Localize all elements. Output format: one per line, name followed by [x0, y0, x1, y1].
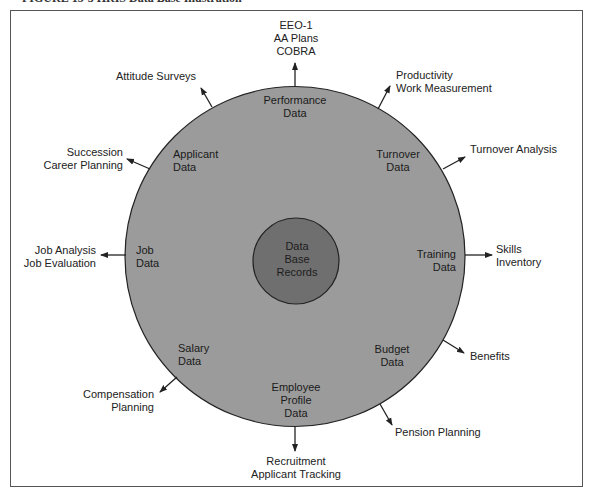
outer-label-training: SkillsInventory: [496, 243, 541, 269]
arrow-salary: [160, 377, 177, 392]
outer-label-pension: Pension Planning: [395, 426, 481, 439]
outer-label-salary: CompensationPlanning: [83, 388, 154, 414]
outer-label-applicant: SuccessionCareer Planning: [44, 146, 124, 172]
outer-label-performance: EEO-1AA PlansCOBRA: [274, 19, 319, 58]
inner-label-budget: BudgetData: [375, 343, 410, 369]
inner-label-employee: EmployeeProfileData: [272, 381, 321, 420]
arrow-pension: [380, 404, 392, 425]
inner-label-applicant: ApplicantData: [173, 148, 218, 174]
outer-label-employee: RecruitmentApplicant Tracking: [251, 455, 341, 481]
inner-label-salary: SalaryData: [178, 342, 209, 368]
center-label: Data Base Records: [277, 240, 318, 279]
inner-label-training: TrainingData: [417, 248, 456, 274]
arrow-applicant: [127, 159, 150, 169]
arrow-turnover: [443, 157, 465, 169]
inner-label-job: JobData: [136, 244, 159, 270]
outer-label-turnover: Turnover Analysis: [470, 143, 557, 156]
inner-label-performance: PerformanceData: [264, 94, 327, 120]
arrow-attitude: [201, 88, 212, 107]
outer-label-attitude: Attitude Surveys: [116, 70, 196, 83]
outer-label-benefits: Benefits: [470, 350, 510, 363]
outer-label-job: Job AnalysisJob Evaluation: [24, 244, 96, 270]
outer-label-productivity: ProductivityWork Measurement: [396, 69, 492, 95]
inner-label-turnover: TurnoverData: [376, 148, 420, 174]
arrow-benefits: [443, 340, 464, 353]
arrow-productivity: [378, 86, 390, 109]
